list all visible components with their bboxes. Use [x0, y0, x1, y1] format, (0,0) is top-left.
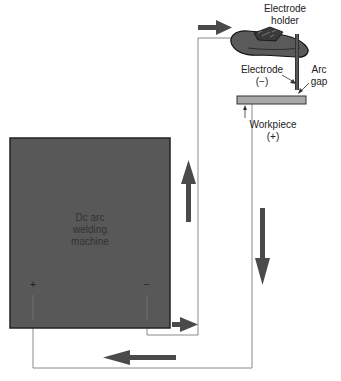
- electrode-label: Electrode (−): [232, 64, 292, 88]
- plus-terminal-label: +: [27, 279, 39, 291]
- welding-circuit-diagram: [0, 0, 341, 381]
- machine-label: Dc arc welding machine: [45, 212, 135, 248]
- arrow-right-icon: [198, 20, 232, 35]
- arrow-right-icon: [172, 317, 198, 332]
- electrode-holder-label: Electrode holder: [250, 3, 320, 27]
- arrow-left-icon: [103, 350, 176, 365]
- minus-terminal-label: −: [141, 279, 153, 291]
- arc-gap-label: Arc gap: [304, 64, 334, 88]
- workpiece-pointer-icon: [243, 105, 247, 110]
- workpiece-bar: [237, 96, 306, 104]
- arrow-up-icon: [181, 160, 196, 222]
- workpiece-label: Workpiece (+): [238, 119, 308, 143]
- arrow-down-icon: [255, 208, 270, 285]
